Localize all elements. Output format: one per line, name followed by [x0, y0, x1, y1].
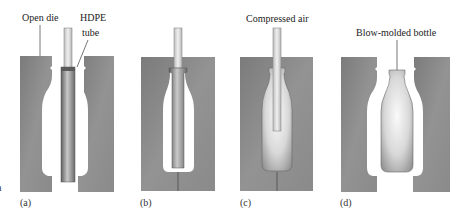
left-die-half — [20, 56, 52, 192]
label-compressed-air: Compressed air — [246, 13, 309, 24]
blow-molding-diagram: Open die HDPE tube (a) (b) Compressed ai… — [0, 0, 464, 216]
panel-label-d: (d) — [340, 197, 352, 209]
panel-a: Open die HDPE tube (a) — [20, 12, 114, 209]
panel-label-c: (c) — [240, 197, 251, 209]
panel-c: Compressed air (c) — [240, 13, 313, 209]
panel-label-a: (a) — [20, 197, 31, 209]
right-die-half — [78, 56, 114, 192]
label-tube: tube — [82, 27, 100, 38]
blow-pipe — [273, 28, 281, 131]
right-die-half — [413, 57, 450, 192]
label-open-die: Open die — [22, 12, 59, 23]
label-blow-molded-bottle: Blow-molded bottle — [356, 27, 437, 38]
left-die-half — [341, 57, 377, 192]
blow-pipe — [174, 28, 182, 68]
label-hdpe: HDPE — [80, 12, 106, 23]
blow-molded-bottle — [381, 70, 413, 172]
hdpe-tube-pinched — [169, 68, 187, 168]
panel-b: (b) — [140, 28, 215, 209]
stray-mark: a — [0, 182, 2, 193]
blow-pipe — [64, 28, 72, 68]
diagram-canvas: Open die HDPE tube (a) (b) Compressed ai… — [0, 0, 464, 216]
panel-label-b: (b) — [140, 197, 152, 209]
tube-top-band — [61, 67, 75, 71]
panel-d: Blow-molded bottle (d) — [340, 27, 450, 209]
hdpe-tube — [61, 67, 75, 182]
